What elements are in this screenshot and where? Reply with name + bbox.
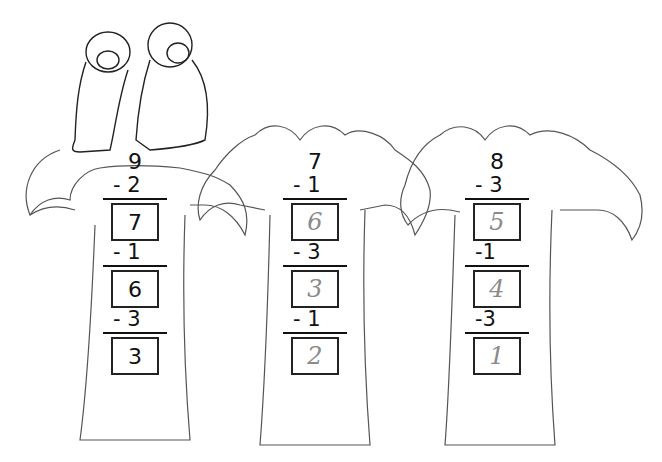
answer-box[interactable]: 6 <box>291 203 339 241</box>
equals-rule <box>103 198 167 200</box>
subtract-operator: - 3 <box>467 174 527 196</box>
start-number: 9 <box>100 150 170 174</box>
start-number: 7 <box>280 150 350 174</box>
answer-box[interactable]: 3 <box>111 337 159 375</box>
monkeys-illustration <box>73 23 208 152</box>
subtract-operator: -3 <box>467 308 527 330</box>
equals-rule <box>103 332 167 334</box>
subtract-operator: -1 <box>467 241 527 263</box>
answer-box[interactable]: 1 <box>473 337 521 375</box>
subtract-operator: - 2 <box>105 174 165 196</box>
answer-box[interactable]: 2 <box>291 337 339 375</box>
subtract-operator: - 3 <box>285 241 345 263</box>
answer-box[interactable]: 5 <box>473 203 521 241</box>
answer-box[interactable]: 7 <box>111 203 159 241</box>
subtract-operator: - 1 <box>285 308 345 330</box>
start-number: 8 <box>462 150 532 174</box>
subtract-operator: - 3 <box>105 308 165 330</box>
subtract-operator: - 1 <box>105 241 165 263</box>
problem-column-1: 9 - 2 7 - 1 6 - 3 3 <box>100 150 170 375</box>
equals-rule <box>103 265 167 267</box>
answer-box[interactable]: 3 <box>291 270 339 308</box>
problem-column-3: 8 - 3 5 -1 4 -3 1 <box>462 150 532 375</box>
equals-rule <box>283 332 347 334</box>
equals-rule <box>465 198 529 200</box>
answer-box[interactable]: 6 <box>111 270 159 308</box>
subtract-operator: - 1 <box>285 174 345 196</box>
answer-box[interactable]: 4 <box>473 270 521 308</box>
problem-column-2: 7 - 1 6 - 3 3 - 1 2 <box>280 150 350 375</box>
equals-rule <box>465 265 529 267</box>
equals-rule <box>465 332 529 334</box>
equals-rule <box>283 265 347 267</box>
equals-rule <box>283 198 347 200</box>
